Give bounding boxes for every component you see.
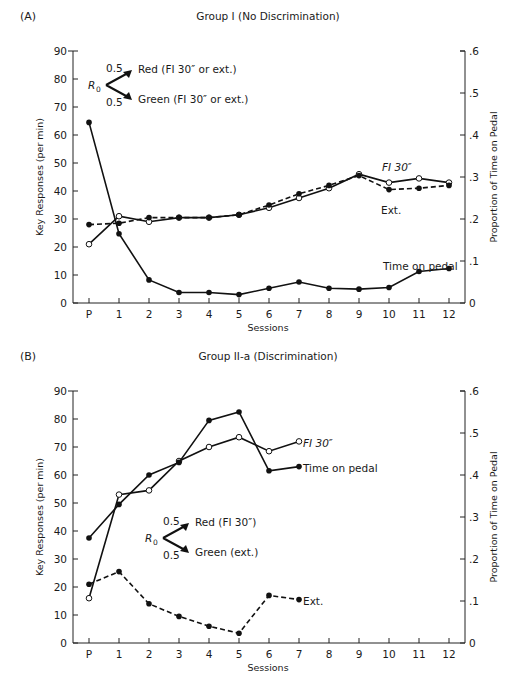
y-tick-label: 20 xyxy=(54,581,67,593)
panel-a: (A)Group I (No Discrimination)0102030405… xyxy=(20,10,499,333)
y2-tick-label: .2 xyxy=(469,553,479,565)
data-point-filled xyxy=(386,187,392,193)
fi30-series-label: FI 30″ xyxy=(382,161,412,173)
data-point-filled xyxy=(176,460,182,466)
data-point-filled xyxy=(116,569,122,575)
x-tick-label: 2 xyxy=(146,308,153,320)
y-tick-label: 10 xyxy=(54,269,67,281)
x-tick-label: P xyxy=(86,648,92,660)
x-tick-label: 6 xyxy=(266,648,273,660)
x-tick-label: 3 xyxy=(176,648,183,660)
x-tick-label: 1 xyxy=(116,308,123,320)
chart-title: Group II-a (Discrimination) xyxy=(198,350,337,362)
x-tick-label: 12 xyxy=(442,308,455,320)
data-point-filled xyxy=(266,202,272,208)
series-time-on-pedal xyxy=(86,409,302,541)
y-tick-label: 90 xyxy=(54,385,67,397)
data-point-filled xyxy=(236,292,242,298)
data-point-filled xyxy=(206,623,212,629)
data-point-open xyxy=(116,213,122,219)
data-point-filled xyxy=(206,215,212,221)
series-line xyxy=(89,572,299,634)
chart-title: Group I (No Discrimination) xyxy=(196,10,339,22)
x-axis-label: Sessions xyxy=(247,662,288,673)
y-tick-label: 70 xyxy=(54,101,67,113)
y2-tick-label: .5 xyxy=(469,87,479,99)
x-tick-label: 9 xyxy=(356,648,363,660)
x-tick-label: 5 xyxy=(236,308,243,320)
data-point-open xyxy=(146,488,152,494)
schedule-diagram: R00.50.5Red (FI 30″)Green (ext.) xyxy=(145,515,258,561)
y-tick-label: 30 xyxy=(54,213,67,225)
data-point-filled xyxy=(236,630,242,636)
y-tick-label: 20 xyxy=(54,241,67,253)
panel-b: (B)Group II-a (Discrimination)0102030405… xyxy=(20,350,499,673)
data-point-open xyxy=(266,448,272,454)
data-point-filled xyxy=(266,468,272,474)
x-tick-label: 3 xyxy=(176,308,183,320)
y-tick-label: 40 xyxy=(54,525,67,537)
lower-probability: 0.5 xyxy=(106,96,123,108)
data-point-open xyxy=(386,180,392,186)
green-branch-text: Green (ext.) xyxy=(195,546,258,558)
x-tick-label: 7 xyxy=(296,648,303,660)
axes-frame xyxy=(68,391,465,643)
data-point-filled xyxy=(116,231,122,237)
y-axis-label: Key Responses (per min) xyxy=(34,458,45,576)
data-point-filled xyxy=(236,212,242,218)
x-axis-label: Sessions xyxy=(247,322,288,333)
data-point-filled xyxy=(326,183,332,189)
ext-series-label: Ext. xyxy=(381,204,401,216)
y2-tick-label: 0 xyxy=(469,637,476,649)
data-point-open xyxy=(86,241,92,247)
figure: (A)Group I (No Discrimination)0102030405… xyxy=(0,0,516,686)
data-point-filled xyxy=(86,120,92,126)
data-point-filled xyxy=(176,614,182,620)
y-tick-label: 10 xyxy=(54,609,67,621)
data-point-filled xyxy=(296,279,302,285)
data-point-filled xyxy=(206,418,212,424)
y2-tick-label: .6 xyxy=(469,385,479,397)
data-point-filled xyxy=(326,286,332,292)
x-tick-label: 5 xyxy=(236,648,243,660)
y2-tick-label: .2 xyxy=(469,213,479,225)
y-tick-label: 30 xyxy=(54,553,67,565)
y2-tick-label: .6 xyxy=(469,45,479,57)
data-point-filled xyxy=(266,286,272,292)
pedal-series-label: Time on pedal xyxy=(302,462,378,474)
r0-label: R xyxy=(145,532,152,544)
y2-axis-label: Proportion of Time on Pedal xyxy=(488,111,499,242)
schedule-diagram: R00.50.5Red (FI 30″ or ext.)Green (FI 30… xyxy=(88,62,248,108)
data-point-filled xyxy=(236,409,242,415)
data-point-open xyxy=(206,444,212,450)
y-tick-label: 0 xyxy=(60,297,67,309)
data-point-filled xyxy=(146,601,152,607)
red-branch-text: Red (FI 30″ or ext.) xyxy=(138,63,237,75)
fi30-series-label: FI 30″ xyxy=(303,437,333,449)
data-point-filled xyxy=(296,597,302,603)
y-tick-label: 90 xyxy=(54,45,67,57)
y2-tick-label: .5 xyxy=(469,427,479,439)
panel-label: (B) xyxy=(20,350,36,363)
data-point-filled xyxy=(146,215,152,221)
data-point-open xyxy=(116,492,122,498)
upper-probability: 0.5 xyxy=(163,515,180,527)
data-point-filled xyxy=(116,502,122,508)
lower-probability: 0.5 xyxy=(163,549,180,561)
ext-series-label: Ext. xyxy=(303,595,323,607)
y-tick-label: 50 xyxy=(54,157,67,169)
y-tick-label: 80 xyxy=(54,73,67,85)
x-tick-label: P xyxy=(86,308,92,320)
data-point-filled xyxy=(266,593,272,599)
x-tick-label: 11 xyxy=(412,308,425,320)
y-axis-label: Key Responses (per min) xyxy=(34,118,45,236)
data-point-filled xyxy=(86,535,92,541)
panel-label: (A) xyxy=(20,10,36,23)
y-tick-label: 60 xyxy=(54,469,67,481)
x-tick-label: 1 xyxy=(116,648,123,660)
upper-probability: 0.5 xyxy=(106,62,123,74)
y2-tick-label: .1 xyxy=(469,255,479,267)
data-point-filled xyxy=(146,277,152,283)
x-tick-label: 11 xyxy=(412,648,425,660)
data-point-filled xyxy=(446,183,452,189)
